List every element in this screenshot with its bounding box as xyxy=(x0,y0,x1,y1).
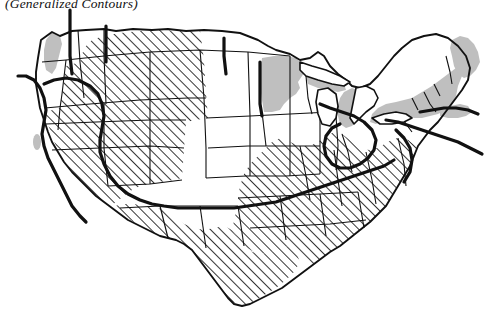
figure-container: (Generalized Contours) xyxy=(0,0,503,318)
region-florida-hatched xyxy=(378,206,422,294)
region-fills xyxy=(33,29,480,306)
us-contour-map xyxy=(0,0,503,318)
region-california-bay-gray xyxy=(33,134,41,150)
